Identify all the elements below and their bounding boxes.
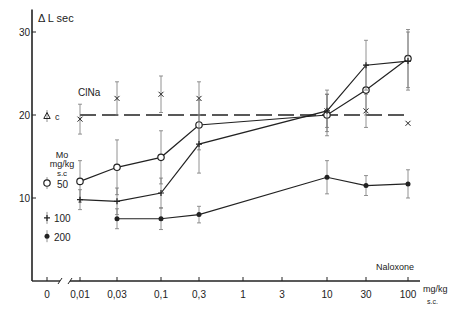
legend-control-label: c xyxy=(55,112,60,122)
x-tick-label: 10 xyxy=(321,289,333,300)
data-point xyxy=(364,183,369,188)
data-point xyxy=(115,216,120,221)
data-point xyxy=(77,178,83,184)
x-tick-label: 0,1 xyxy=(154,289,168,300)
data-point xyxy=(325,175,330,180)
axes xyxy=(32,9,420,284)
y-tick-label: 10 xyxy=(19,193,31,204)
y-tick-label: 20 xyxy=(19,110,31,121)
x-tick-label: 30 xyxy=(360,289,372,300)
x-tick-label: 0,03 xyxy=(107,289,127,300)
data-point xyxy=(114,164,120,170)
legend-marker-100 xyxy=(44,215,50,221)
series-clna xyxy=(78,76,411,134)
legend xyxy=(44,110,50,242)
data-point xyxy=(406,181,411,186)
y-tick-label: 30 xyxy=(19,27,31,38)
x-unit-sub-label: s.c. xyxy=(427,298,438,305)
x-tick-label: 0 xyxy=(44,289,50,300)
x-tick-label: 0,01 xyxy=(70,289,90,300)
series-line xyxy=(80,61,408,201)
clna-annotation: ClNa xyxy=(78,87,101,98)
legend-marker-50 xyxy=(44,180,50,186)
x-axis-label: Naloxone xyxy=(376,262,414,272)
series-mo-50 xyxy=(77,30,411,203)
y-axis-label: Δ L sec xyxy=(38,12,74,24)
chart: 10203000,010,030,10,3131030100 Δ L sec C… xyxy=(0,0,460,314)
legend-label-50: 50 xyxy=(57,179,69,190)
legend-title-line3: s.c xyxy=(57,169,67,178)
legend-label-100: 100 xyxy=(54,213,71,224)
data-point xyxy=(406,121,411,126)
x-tick-label: 1 xyxy=(240,289,246,300)
series-mo-200 xyxy=(115,161,411,230)
data-point xyxy=(159,216,164,221)
x-tick-label: 100 xyxy=(400,289,417,300)
legend-marker-200 xyxy=(45,234,50,239)
x-tick-label: 0,3 xyxy=(192,289,206,300)
data-point xyxy=(77,197,83,203)
ticks: 10203000,010,030,10,3131030100 xyxy=(19,27,417,300)
series-group xyxy=(77,30,411,230)
data-point xyxy=(158,154,164,160)
data-point xyxy=(197,212,202,217)
x-unit-label: mg/kg xyxy=(423,284,448,294)
series-mo-100 xyxy=(77,32,411,215)
x-tick-label: 3 xyxy=(279,289,285,300)
series-line xyxy=(80,59,408,182)
legend-title-line2: mg/kg xyxy=(50,159,75,169)
legend-label-200: 200 xyxy=(54,232,71,243)
data-point xyxy=(114,198,120,204)
